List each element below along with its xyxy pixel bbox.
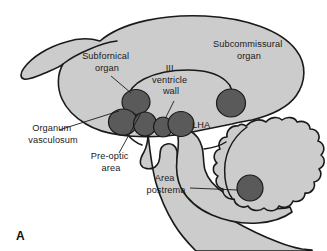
label-organum-vasculosum: Organum vasculosum — [28, 123, 78, 145]
label-lha: LHA — [192, 120, 211, 130]
cerebellum-shape — [213, 118, 324, 211]
pre-optic-area-circle[interactable] — [134, 112, 157, 136]
brain-sagittal-diagram: Subfornical organ Subcommissural organ I… — [0, 0, 327, 251]
label-pre-optic-area: Pre-optic area — [91, 151, 131, 173]
lha-circle[interactable] — [168, 112, 194, 137]
figure-panel-a: Subfornical organ Subcommissural organ I… — [0, 0, 327, 251]
cerebellum-outline — [213, 118, 324, 211]
panel-letter-a: A — [16, 229, 25, 243]
area-postrema-circle[interactable] — [237, 175, 263, 201]
subcommissural-organ-circle[interactable] — [217, 89, 246, 117]
